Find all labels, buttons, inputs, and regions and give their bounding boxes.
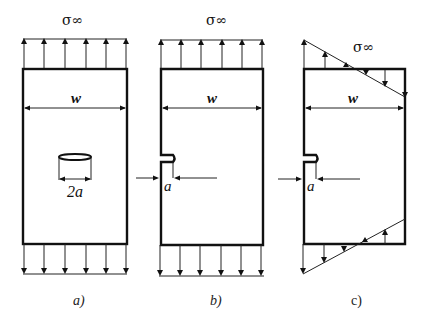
crack-length-label: 2a: [67, 183, 83, 200]
fracture-mechanics-figure: σ∞ w 2a: [0, 0, 427, 331]
tension-arrows-top: [21, 38, 129, 69]
panel-caption: b): [210, 293, 222, 309]
stress-label: σ∞: [353, 39, 374, 55]
center-crack: [59, 154, 91, 182]
stress-label: σ∞: [206, 12, 227, 28]
stress-label: σ∞: [62, 12, 83, 28]
panel-caption: c): [351, 293, 362, 309]
width-label: w: [348, 90, 359, 106]
width-dimension: [24, 106, 126, 111]
panel-b: σ∞ w a: [136, 12, 265, 309]
crack-length-dimension: [278, 162, 360, 182]
crack-length-label: a: [164, 178, 172, 194]
tension-arrows-bottom: [21, 244, 129, 274]
panel-c: σ∞ w a: [278, 39, 408, 309]
crack-length-dimension: [136, 162, 217, 181]
crack-length-label: a: [307, 178, 315, 194]
panel-a: σ∞ w 2a: [21, 12, 129, 309]
width-label: w: [207, 90, 218, 106]
tension-arrows-top: [158, 39, 265, 69]
width-dimension: [305, 106, 404, 111]
panel-caption: a): [73, 293, 85, 309]
width-dimension: [162, 106, 262, 111]
tension-arrows-bottom: [157, 245, 264, 276]
width-label: w: [71, 90, 82, 106]
bending-stress-bottom: [300, 219, 405, 274]
